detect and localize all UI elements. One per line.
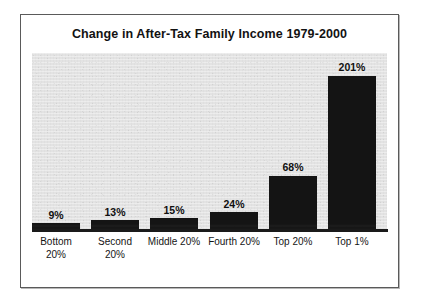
x-label-top-1-line1: Top 1%	[317, 236, 387, 249]
bar-group-fourth-20[interactable]: 24%	[210, 212, 258, 230]
chart-title: Change in After-Tax Family Income 1979-2…	[21, 27, 398, 41]
bar-rect-top-1	[328, 76, 376, 230]
x-axis-labels: Bottom 20% Second 20% Middle 20% Fourth …	[32, 236, 387, 276]
bar-group-top-1[interactable]: 201%	[328, 76, 376, 230]
x-axis-line	[32, 229, 388, 232]
x-label-top-1: Top 1%	[317, 236, 387, 249]
bars-layer: 9% 13% 15% 24% 68% 201%	[32, 53, 387, 230]
bar-value-bottom-20: 9%	[23, 209, 89, 221]
bar-rect-fourth-20	[210, 212, 258, 230]
chart-figure: Change in After-Tax Family Income 1979-2…	[20, 14, 399, 288]
bar-value-fourth-20: 24%	[201, 198, 267, 210]
bar-value-top-1: 201%	[319, 61, 385, 73]
bar-value-top-20: 68%	[260, 161, 326, 173]
bar-value-middle-20: 15%	[141, 204, 207, 216]
bar-group-top-20[interactable]: 68%	[269, 176, 317, 230]
x-label-second-20-line2: 20%	[80, 249, 150, 262]
bar-rect-top-20	[269, 176, 317, 230]
bar-value-second-20: 13%	[82, 206, 148, 218]
